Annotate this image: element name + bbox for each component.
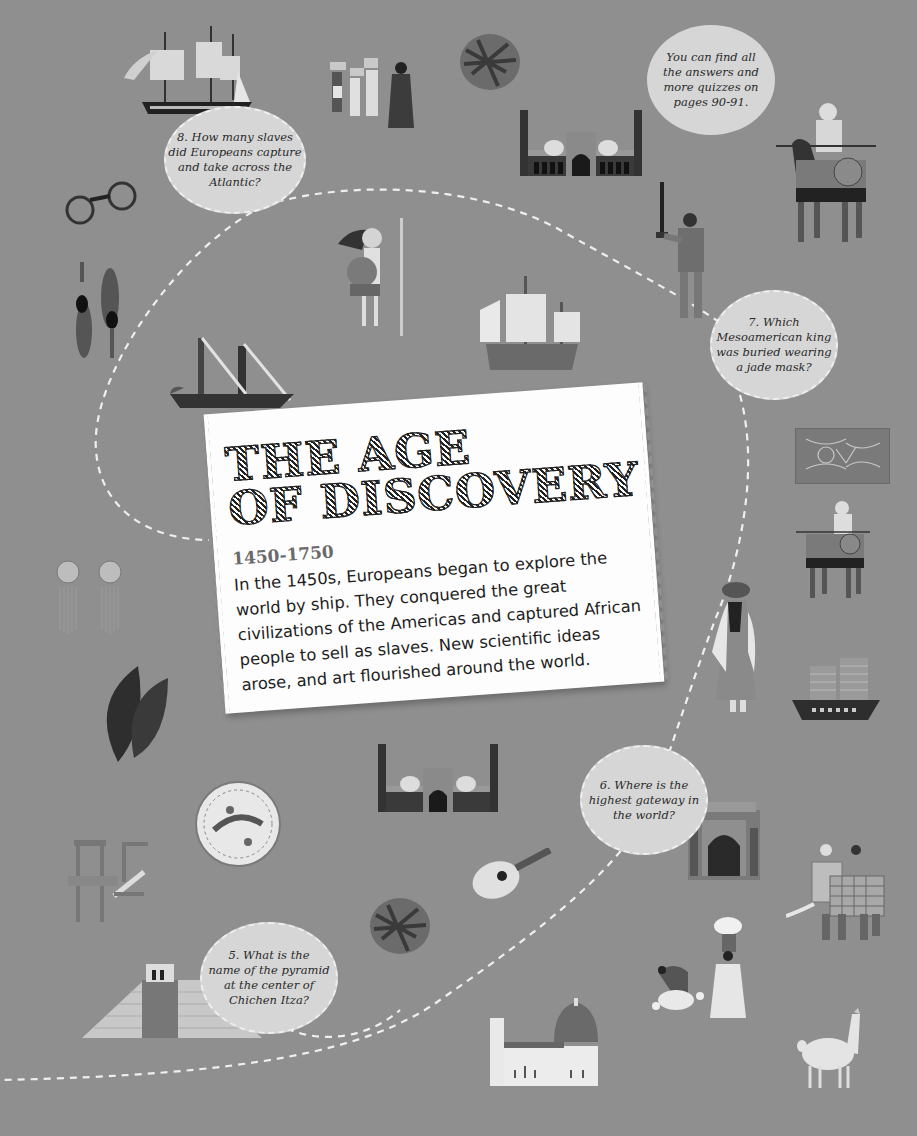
question-6-text: 6. Where is the highest gateway in the w… (589, 778, 699, 823)
mosque-icon (518, 106, 644, 178)
tobacco-leaves-icon (98, 662, 174, 764)
page-title: THE AGE OF DISCOVERY (224, 413, 641, 531)
question-6-bubble: 6. Where is the highest gateway in the w… (580, 745, 708, 855)
llama-icon (796, 1008, 866, 1092)
junk-ship-icon (790, 652, 882, 724)
earrings-icon (48, 558, 128, 638)
question-5-bubble: 5. What is the name of the pyramid at th… (200, 922, 338, 1034)
book-page: You can find all the answers and more qu… (0, 0, 917, 1136)
decorated-plate-icon (194, 780, 282, 868)
feather-ornaments-icon (70, 262, 126, 362)
question-7-bubble: 7. Which Mesoamerican king was buried we… (710, 290, 838, 400)
lute-icon (470, 848, 556, 902)
question-7-text: 7. Which Mesoamerican king was buried we… (716, 315, 831, 375)
question-8-bubble: 8. How many slaves did Europeans capture… (164, 106, 306, 214)
shackles-icon (62, 180, 144, 226)
domed-cathedral-icon (488, 998, 600, 1088)
torch-bearer-icon (654, 180, 718, 326)
caravel-icon (476, 272, 598, 372)
title-ticket-card: THE AGE OF DISCOVERY 1450-1750 In the 14… (204, 382, 665, 713)
date-range: 1450-1750 (232, 541, 335, 568)
mounted-knight-icon (776, 100, 880, 246)
mounted-warrior-icon (796, 498, 876, 602)
spice-bundle-icon-2 (368, 895, 432, 957)
printing-press-icon (64, 836, 154, 930)
answers-info-bubble: You can find all the answers and more qu… (647, 25, 775, 135)
patterned-textile-icon (795, 428, 890, 484)
question-8-text: 8. How many slaves did Europeans capture… (168, 130, 301, 190)
tall-ship-icon (112, 22, 252, 118)
war-elephant-icon (786, 842, 886, 942)
question-5-text: 5. What is the name of the pyramid at th… (208, 948, 329, 1008)
galley-icon (168, 330, 298, 416)
answers-info-text: You can find all the answers and more qu… (663, 50, 759, 110)
cotton-pickers-icon (650, 916, 750, 1022)
porters-and-merchant-icon (328, 56, 418, 131)
aztec-warrior-icon (336, 214, 416, 340)
spice-bundle-icon (458, 30, 522, 94)
mosque-icon-2 (376, 740, 500, 814)
veiled-figure-icon (700, 582, 766, 716)
intro-paragraph: In the 1450s, Europeans began to explore… (233, 543, 651, 698)
